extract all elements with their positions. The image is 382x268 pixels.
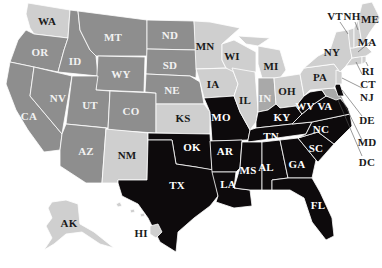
label-VT: VT [327, 11, 343, 22]
label-NV: NV [50, 93, 66, 104]
label-TX: TX [169, 180, 185, 191]
label-UT: UT [82, 100, 98, 111]
label-DE: DE [359, 115, 375, 126]
label-FL: FL [311, 200, 325, 211]
label-CA: CA [21, 111, 37, 122]
label-GA: GA [289, 159, 306, 170]
label-KY: KY [274, 112, 291, 123]
label-OR: OR [32, 47, 49, 58]
label-SC: SC [309, 143, 323, 154]
label-MA: MA [358, 37, 377, 48]
label-OK: OK [183, 142, 201, 153]
label-PA: PA [313, 72, 327, 83]
label-DC: DC [359, 157, 375, 168]
label-LA: LA [220, 179, 236, 190]
label-NM: NM [118, 150, 137, 161]
label-AZ: AZ [78, 146, 94, 157]
label-MS: MS [240, 165, 257, 176]
label-NJ: NJ [360, 92, 374, 103]
label-IN: IN [259, 93, 272, 104]
label-MI: MI [263, 61, 278, 72]
state-RI[interactable] [362, 56, 366, 64]
label-CT: CT [360, 79, 376, 90]
label-ND: ND [162, 30, 178, 41]
label-ME: ME [361, 14, 379, 25]
label-AL: AL [258, 162, 274, 173]
label-MT: MT [104, 32, 122, 43]
label-AR: AR [217, 146, 233, 157]
label-MN: MN [196, 41, 215, 52]
label-NH: NH [344, 11, 361, 22]
label-VA: VA [318, 101, 333, 112]
label-CO: CO [123, 106, 140, 117]
state-AK[interactable] [44, 200, 114, 250]
label-NE: NE [164, 85, 180, 96]
label-WA: WA [38, 16, 56, 27]
label-WV: WV [295, 101, 314, 112]
label-IA: IA [207, 79, 220, 90]
label-WY: WY [111, 69, 130, 80]
label-HI: HI [134, 228, 147, 239]
label-NY: NY [324, 47, 340, 58]
label-RI: RI [362, 66, 375, 77]
label-KS: KS [175, 113, 190, 124]
label-WI: WI [224, 51, 240, 62]
label-SD: SD [163, 60, 177, 71]
label-IL: IL [239, 95, 251, 106]
label-TN: TN [263, 131, 279, 142]
label-ID: ID [69, 56, 82, 67]
label-AK: AK [61, 218, 78, 229]
label-MO: MO [211, 112, 230, 123]
label-MD: MD [358, 137, 377, 148]
label-NC: NC [313, 124, 329, 135]
label-OH: OH [278, 86, 296, 97]
state-NJ[interactable] [336, 70, 342, 84]
